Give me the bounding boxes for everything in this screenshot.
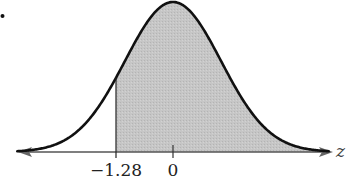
shaded-area xyxy=(116,2,329,152)
normal-curve-chart: −1.28 0 z xyxy=(0,0,346,179)
tick-label-neg-1-28: −1.28 xyxy=(90,160,142,179)
axis-label-z: z xyxy=(335,141,346,161)
bullet-dot xyxy=(1,14,5,18)
tick-label-0: 0 xyxy=(168,160,179,179)
